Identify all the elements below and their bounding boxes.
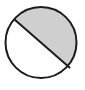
circle-segment-diagram (0, 0, 85, 90)
figure-canvas (0, 0, 85, 90)
